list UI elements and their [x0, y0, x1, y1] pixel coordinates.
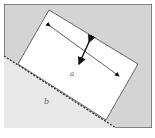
label-b: b: [44, 97, 49, 106]
label-a: a: [70, 70, 74, 78]
diagram-frame: a b: [4, 4, 152, 128]
diagram-canvas: a b: [4, 4, 152, 128]
